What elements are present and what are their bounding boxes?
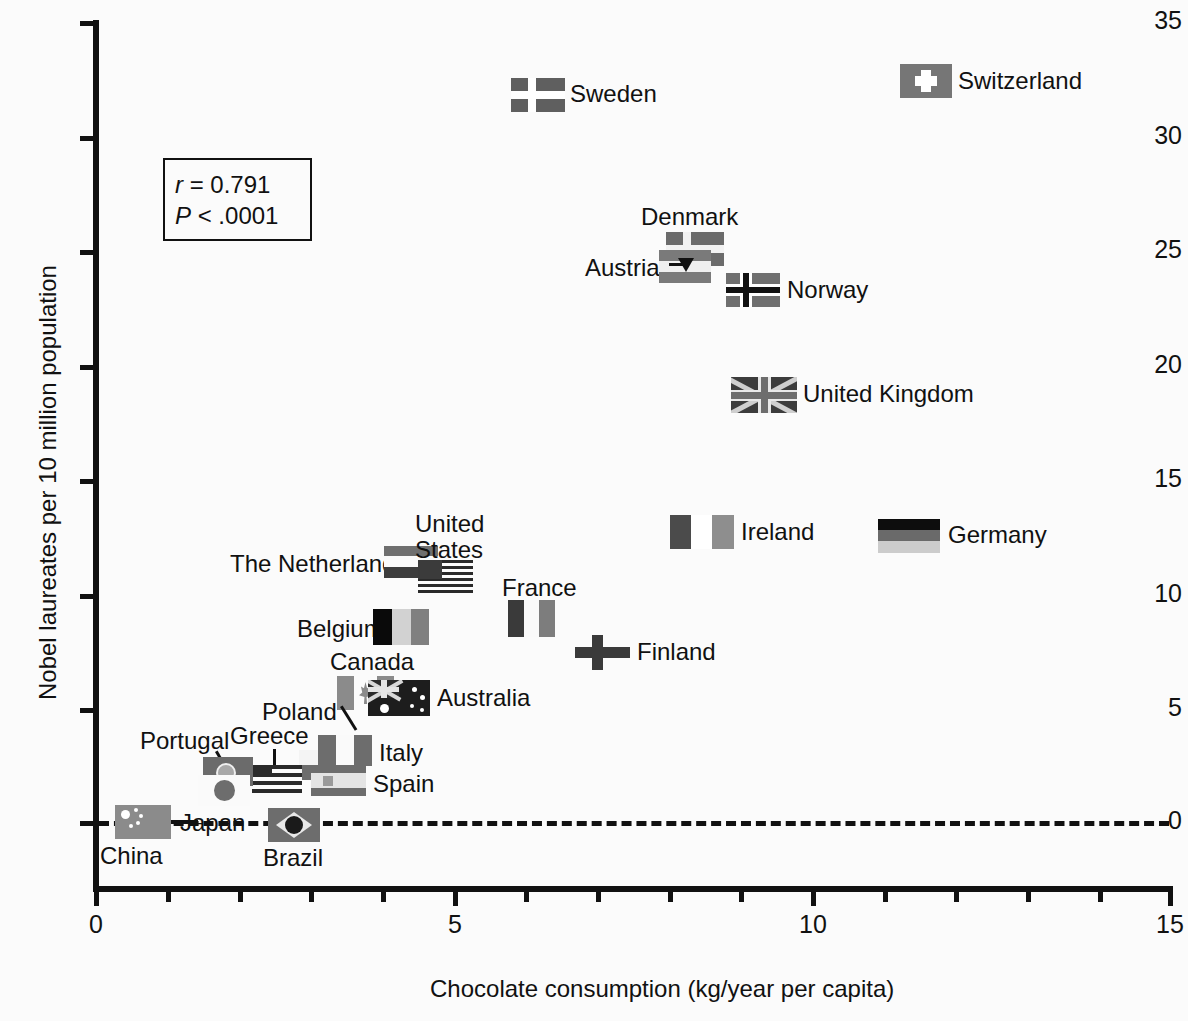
pointer-austria <box>678 258 694 272</box>
flag-switzerland <box>900 64 952 98</box>
label-norway: Norway <box>787 277 868 303</box>
x-tick-5 <box>453 891 458 906</box>
x-tick-2 <box>238 891 243 902</box>
flag-australia <box>368 680 430 716</box>
label-france: France <box>502 575 577 601</box>
y-tick-label-25: 25 <box>1136 237 1182 262</box>
y-tick-15 <box>80 479 96 484</box>
x-axis-line <box>93 886 1173 892</box>
y-axis-title: Nobel laureates per 10 million populatio… <box>34 265 62 700</box>
flag-sweden <box>511 78 565 112</box>
label-canada: Canada <box>330 649 414 675</box>
x-tick-9 <box>739 891 744 902</box>
flag-italy <box>318 735 372 766</box>
label-ireland: Ireland <box>741 519 814 545</box>
y-tick-label-10: 10 <box>1136 581 1182 606</box>
label-austria: Austria <box>585 255 660 281</box>
label-united-states-line1: United <box>415 511 484 537</box>
y-tick-label-5: 5 <box>1136 695 1182 720</box>
x-tick-12 <box>954 891 959 902</box>
label-japan: Japan <box>180 810 245 836</box>
flag-norway <box>726 273 780 307</box>
y-tick-35 <box>80 21 96 26</box>
label-italy: Italy <box>379 740 423 766</box>
x-tick-8 <box>668 891 673 902</box>
y-tick-label-30: 30 <box>1136 123 1182 148</box>
flag-united-states <box>418 560 473 596</box>
correlation-row: r = 0.791 <box>175 171 300 198</box>
x-tick-4 <box>381 891 386 902</box>
statistics-box: r = 0.791 P < .0001 <box>163 158 312 241</box>
flag-brazil <box>268 808 320 842</box>
flag-finland <box>575 635 630 670</box>
x-tick-11 <box>883 891 888 902</box>
label-greece: Greece <box>230 723 309 749</box>
r-symbol: r <box>175 171 183 198</box>
y-axis-line <box>93 20 99 892</box>
y-tick-10 <box>80 594 96 599</box>
flag-france <box>508 600 555 637</box>
y-tick-5 <box>80 708 96 713</box>
y-tick-25 <box>80 250 96 255</box>
label-finland: Finland <box>637 639 716 665</box>
zero-reference-line <box>99 821 1169 826</box>
x-tick-label-10: 10 <box>783 912 843 937</box>
p-symbol: P <box>175 202 191 229</box>
flag-china <box>115 805 171 839</box>
label-united-kingdom: United Kingdom <box>803 381 974 407</box>
x-tick-14 <box>1098 891 1103 902</box>
label-spain: Spain <box>373 771 434 797</box>
x-axis-title: Chocolate consumption (kg/year per capit… <box>430 975 894 1003</box>
x-tick-10 <box>811 891 816 906</box>
x-tick-label-15: 15 <box>1140 912 1188 937</box>
x-tick-13 <box>1026 891 1031 902</box>
flag-greece <box>252 765 302 797</box>
x-tick-label-0: 0 <box>66 912 126 937</box>
flag-ireland <box>670 515 734 549</box>
x-tick-7 <box>596 891 601 902</box>
flag-spain <box>311 765 366 796</box>
p-value: < .0001 <box>198 202 279 229</box>
x-tick-1 <box>166 891 171 902</box>
label-sweden: Sweden <box>570 81 657 107</box>
label-netherlands: The Netherlands <box>230 551 407 577</box>
y-tick-30 <box>80 136 96 141</box>
label-denmark: Denmark <box>641 204 738 230</box>
label-switzerland: Switzerland <box>958 68 1082 94</box>
y-tick-label-20: 20 <box>1136 352 1182 377</box>
flag-japan <box>198 775 250 806</box>
x-tick-3 <box>309 891 314 902</box>
x-tick-15 <box>1168 891 1173 906</box>
y-tick-label-15: 15 <box>1136 466 1182 491</box>
label-brazil: Brazil <box>263 845 323 871</box>
x-tick-0 <box>94 891 99 906</box>
pvalue-row: P < .0001 <box>175 202 300 229</box>
x-tick-label-5: 5 <box>425 912 485 937</box>
y-tick-20 <box>80 365 96 370</box>
y-tick-0 <box>80 821 96 826</box>
label-belgium: Belgium <box>297 616 384 642</box>
label-china: China <box>100 843 163 869</box>
label-germany: Germany <box>948 522 1047 548</box>
flag-belgium <box>373 609 429 645</box>
y-tick-label-35: 35 <box>1136 8 1182 33</box>
r-value: = 0.791 <box>190 171 271 198</box>
x-tick-6 <box>524 891 529 902</box>
flag-united-kingdom <box>731 377 797 413</box>
flag-germany <box>878 519 940 553</box>
label-australia: Australia <box>437 685 530 711</box>
